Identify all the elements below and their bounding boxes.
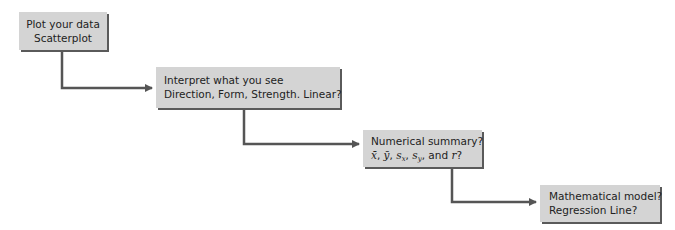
step-subtitle-statistics: x̄, ȳ, sx, sy, and r?: [371, 148, 482, 166]
step-box-plot-data: Plot your data Scatterplot: [19, 12, 107, 50]
step-title: Numerical summary?: [371, 134, 482, 148]
step-subtitle: Scatterplot: [19, 31, 107, 45]
step-box-numerical-summary: Numerical summary? x̄, ȳ, sx, sy, and r?: [363, 130, 482, 167]
step-title: Mathematical model?: [549, 189, 660, 203]
step-box-mathematical-model: Mathematical model? Regression Line?: [540, 185, 660, 222]
connector-1-to-2: [62, 52, 152, 88]
connector-2-to-3: [244, 110, 359, 144]
connector-3-to-4: [452, 169, 536, 202]
step-title: Interpret what you see: [164, 73, 340, 87]
step-subtitle: Regression Line?: [549, 203, 660, 217]
step-subtitle: Direction, Form, Strength. Linear?: [164, 87, 340, 101]
step-title: Plot your data: [19, 17, 107, 31]
step-box-interpret: Interpret what you see Direction, Form, …: [156, 67, 340, 108]
question-mark: ?: [456, 149, 462, 161]
separator: ,: [377, 149, 384, 161]
separator: , and: [422, 149, 452, 161]
